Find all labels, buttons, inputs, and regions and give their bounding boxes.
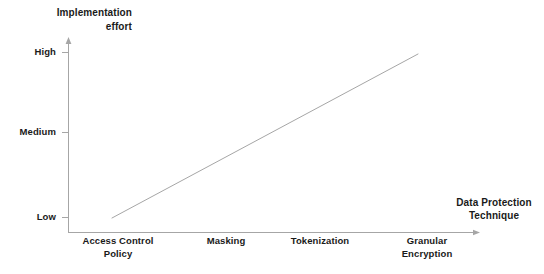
- chart-plot-area: [0, 0, 544, 274]
- y-axis-arrow-icon: [66, 37, 72, 44]
- x-axis-title-line1: Data Protection: [456, 197, 531, 208]
- x-tick-label-masking: Masking: [176, 234, 276, 247]
- x-tick-label-access-control-policy: Access ControlPolicy: [58, 234, 178, 260]
- y-axis-title-line1: Implementation: [57, 7, 132, 18]
- y-tick-label-low: Low: [0, 211, 56, 224]
- y-axis-title-line2: effort: [106, 21, 132, 32]
- x-tick-label-granular-encryption: GranularEncryption: [377, 234, 477, 260]
- y-tick-label-medium: Medium: [0, 126, 56, 139]
- x-axis-title-line2: Technique: [469, 210, 519, 221]
- x-tick-label-granular-encryption-line2: Encryption: [402, 248, 453, 259]
- x-tick-label-tokenization-line1: Tokenization: [291, 235, 350, 246]
- x-axis-title: Data ProtectionTechnique: [444, 196, 544, 222]
- y-axis-title: Implementationeffort: [8, 6, 132, 34]
- trend-line: [112, 54, 418, 218]
- x-tick-label-access-control-policy-line1: Access Control: [82, 235, 153, 246]
- chart-figure: Implementationeffort Data ProtectionTech…: [0, 0, 544, 274]
- x-tick-label-access-control-policy-line2: Policy: [104, 248, 133, 259]
- x-tick-label-tokenization: Tokenization: [270, 234, 370, 247]
- y-tick-label-high: High: [0, 46, 56, 59]
- x-tick-label-masking-line1: Masking: [207, 235, 246, 246]
- x-tick-label-granular-encryption-line1: Granular: [407, 235, 447, 246]
